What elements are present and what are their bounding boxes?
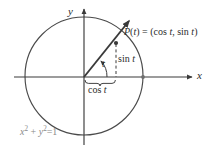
point-label: P(t) = (cos t, sin t) <box>124 27 197 37</box>
sin-label: sin t <box>118 54 135 64</box>
point-p-marker <box>114 41 118 45</box>
cos-label: cos t <box>88 85 107 95</box>
sin-label-var: t <box>132 53 135 64</box>
cos-label-var: t <box>104 84 107 95</box>
x-intercept-marker <box>141 75 145 79</box>
equation-equals: =1 <box>47 126 58 137</box>
cos-label-fn: cos <box>88 84 104 95</box>
angle-label: t <box>102 59 105 69</box>
radius-ray <box>84 21 129 77</box>
y-axis-label: y <box>68 6 73 17</box>
point-label-equals: = (cos <box>140 26 170 37</box>
sin-label-fn: sin <box>118 53 132 64</box>
x-axis-label: x <box>197 70 202 81</box>
circle-equation-label: x2 + y2=1 <box>20 126 57 137</box>
point-label-comma: , sin <box>172 26 191 37</box>
unit-circle-figure: y x P(t) = (cos t, sin t) t sin t cos t … <box>0 0 216 149</box>
point-label-close2: ) <box>194 26 197 37</box>
